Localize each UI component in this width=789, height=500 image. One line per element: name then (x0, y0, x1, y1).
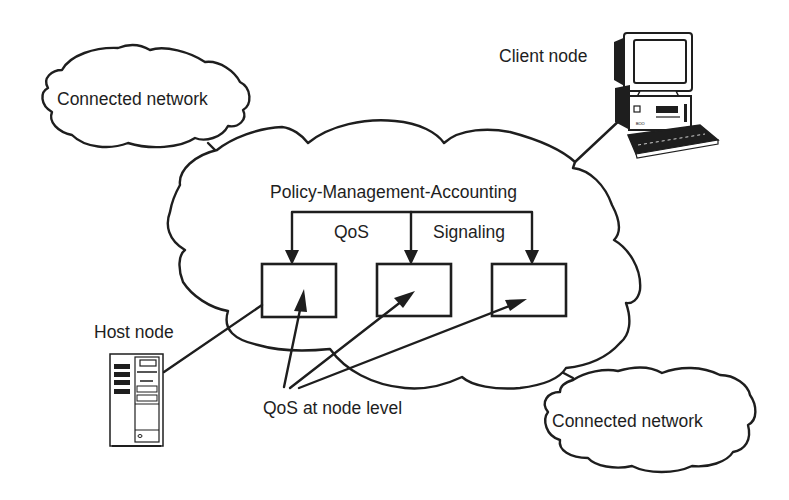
svg-text:ᴮᴼᴼ: ᴮᴼᴼ (636, 122, 645, 128)
desktop-computer-icon: ᴮᴼᴼ (614, 33, 718, 158)
qos-node-box-2 (377, 264, 451, 316)
policy-management-accounting-label: Policy-Management-Accounting (270, 184, 517, 202)
link-client-node-to-main (575, 118, 622, 162)
qos-branch-label: QoS (334, 224, 369, 242)
host-node-label: Host node (94, 324, 174, 342)
signaling-branch-label: Signaling (433, 224, 505, 242)
connected-network-label-bottom-right: Connected network (552, 413, 703, 431)
connected-network-label-top-left: Connected network (57, 91, 208, 109)
client-node-label: Client node (499, 48, 588, 66)
qos-at-node-level-label: QoS at node level (263, 400, 402, 418)
server-tower-icon (110, 354, 163, 446)
